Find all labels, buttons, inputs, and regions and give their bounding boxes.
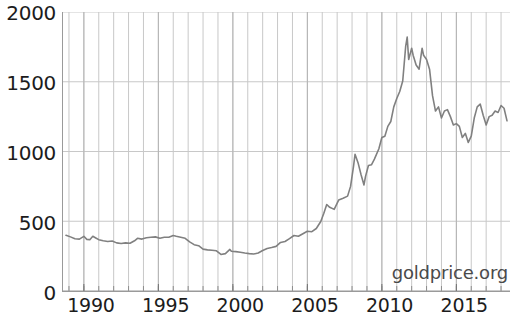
x-tick-label-1990: 1990 — [67, 296, 114, 315]
y-tick-label-1500: 1500 — [0, 73, 56, 93]
x-tick-label-2015: 2015 — [441, 296, 488, 315]
y-tick-label-500: 500 — [0, 213, 56, 233]
y-tick-label-0: 0 — [0, 283, 56, 303]
gold-price-chart: 2000 1500 1000 500 0 1990 1995 2000 2005… — [0, 0, 516, 324]
y-tick-label-2000: 2000 — [0, 3, 56, 23]
gold-price-line — [63, 12, 510, 291]
x-tick-label-2005: 2005 — [291, 296, 338, 315]
x-tick-label-2000: 2000 — [217, 296, 264, 315]
x-tick-label-2010: 2010 — [366, 296, 413, 315]
y-tick-label-1000: 1000 — [0, 143, 56, 163]
plot-area — [62, 12, 510, 292]
watermark-goldprice: goldprice.org — [392, 262, 508, 283]
x-tick-label-1995: 1995 — [142, 296, 189, 315]
